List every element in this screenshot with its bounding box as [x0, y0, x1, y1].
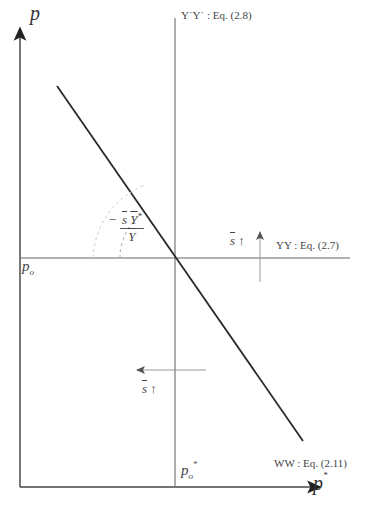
up-arrow-icon: ↑: [150, 381, 157, 396]
slope-annotation: − s Y* Y: [108, 212, 144, 245]
slope-sign: −: [108, 212, 117, 227]
po-label: po: [22, 258, 34, 277]
slope-denominator: Y: [120, 229, 144, 245]
y-axis-label: p: [30, 2, 40, 25]
ww-line: [57, 86, 303, 441]
slope-numerator: s Y*: [120, 212, 144, 229]
diagram-canvas: [0, 0, 371, 514]
x-axis-label: p*: [313, 472, 328, 495]
ww-curve-label: WW : Eq. (2.11): [274, 457, 347, 469]
yy-star-curve-label: Y˙Y˙ : Eq. (2.8): [181, 9, 252, 21]
po-star-label: po*: [181, 462, 197, 481]
yy-shift-label: s ↑: [230, 233, 245, 249]
yy-curve-label: YY : Eq. (2.7): [276, 239, 339, 251]
up-arrow-icon: ↑: [238, 233, 245, 248]
yystar-shift-label: s ↑: [142, 381, 157, 397]
